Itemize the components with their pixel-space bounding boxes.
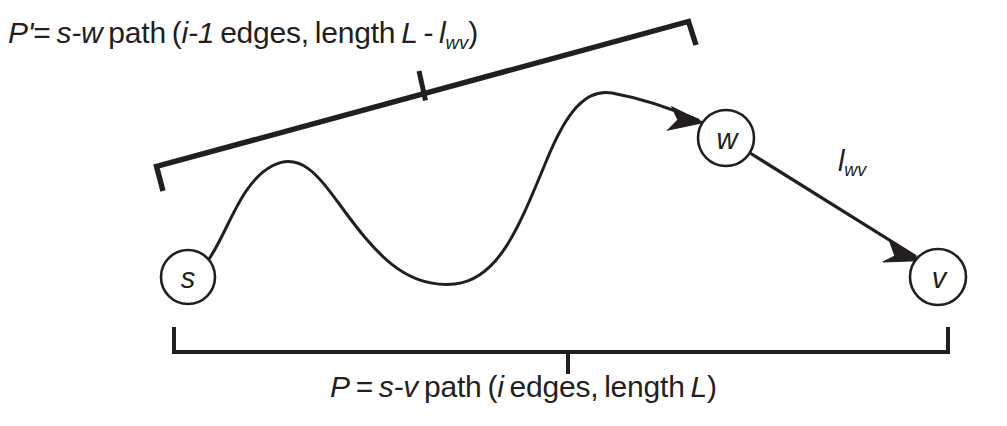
top-path-weight-subscript: wv [446, 32, 469, 53]
edge-weight-label: lwv [838, 147, 866, 176]
top-path-open-paren: ( [172, 16, 182, 49]
bottom-path-length-value: L [691, 370, 708, 403]
edge-s-to-w [209, 92, 704, 284]
top-path-minus: - [423, 16, 433, 49]
top-path-label: P'= s-w path (i-1 edges, length L - lwv) [8, 18, 478, 48]
diagram-graphics [0, 0, 1007, 426]
bottom-path-edge-count: i [497, 370, 503, 403]
bottom-path-endpoints: s-v [379, 370, 418, 403]
bottom-path-length-word: length [604, 370, 685, 403]
top-path-weight-symbol: l [439, 16, 445, 49]
bottom-path-word: path [424, 370, 482, 403]
top-path-length-word: length [315, 16, 396, 49]
node-s-label: s [181, 264, 196, 293]
top-path-close-paren: ) [468, 16, 478, 49]
bottom-bracket-body [174, 327, 948, 352]
node-v-label: v [932, 264, 947, 293]
edge-weight-subscript: wv [844, 160, 866, 180]
bottom-path-label: P = s-v path (i edges, length L) [330, 372, 717, 402]
top-path-name: P' [8, 16, 33, 49]
diagram-canvas: s w v P'= s-w path (i-1 edges, length L … [0, 0, 1007, 426]
edge-w-to-v-line [750, 153, 915, 256]
top-path-length-value: L [401, 16, 418, 49]
top-path-edge-count: i-1 [182, 16, 215, 49]
bottom-path-close-paren: ) [707, 370, 717, 403]
edge-w-to-v [750, 153, 922, 262]
top-path-equals: = [33, 16, 50, 49]
bottom-bracket [174, 327, 948, 374]
top-path-edges-word: edges, [220, 16, 309, 49]
bottom-path-edges-word: edges, [509, 370, 598, 403]
bottom-path-name: P [330, 370, 350, 403]
bottom-path-equals: = [356, 370, 373, 403]
top-path-word: path [108, 16, 166, 49]
node-w-label: w [717, 125, 738, 154]
edge-s-to-w-curve [209, 92, 698, 284]
top-path-endpoints: s-w [56, 16, 102, 49]
bottom-path-open-paren: ( [487, 370, 497, 403]
